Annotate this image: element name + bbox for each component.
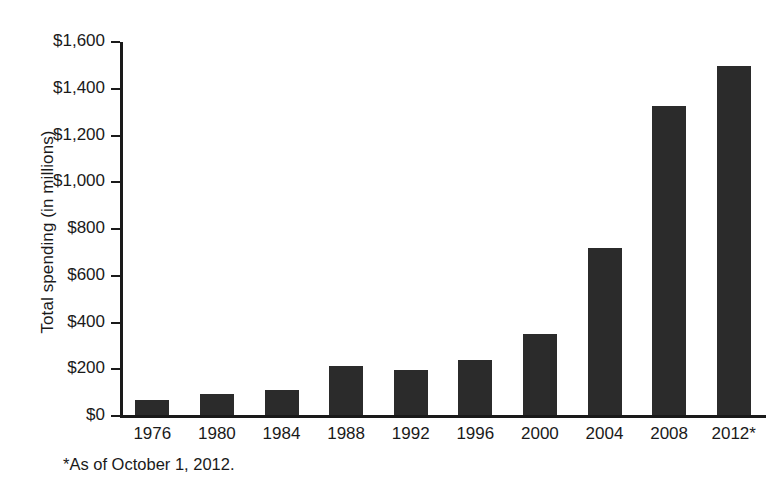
- y-tick-800: $800: [111, 228, 120, 230]
- bar-1984: [265, 390, 299, 415]
- x-tick-label-2008: 2008: [637, 424, 702, 444]
- y-tick-0: $0: [111, 415, 120, 417]
- x-tick-label-2012: 2012*: [701, 424, 766, 444]
- bar-1980: [200, 394, 234, 415]
- y-tick-label-600: $600: [67, 264, 105, 284]
- y-tick-1600: $1,600: [111, 41, 120, 43]
- y-tick-1000: $1,000: [111, 181, 120, 183]
- y-tick-label-800: $800: [67, 218, 105, 238]
- x-tick-label-2004: 2004: [572, 424, 637, 444]
- x-tick-label-1992: 1992: [378, 424, 443, 444]
- y-tick-label-1200: $1,200: [53, 124, 105, 144]
- bar-2012: [717, 66, 751, 415]
- x-axis-spine: [120, 415, 766, 418]
- bar-1992: [394, 370, 428, 415]
- y-tick-1400: $1,400: [111, 88, 120, 90]
- y-tick-label-400: $400: [67, 311, 105, 331]
- y-tick-600: $600: [111, 275, 120, 277]
- bar-2008: [652, 106, 686, 415]
- y-tick-200: $200: [111, 368, 120, 370]
- y-axis-spine: [120, 42, 123, 416]
- bar-2000: [523, 334, 557, 415]
- y-tick-1200: $1,200: [111, 135, 120, 137]
- y-tick-400: $400: [111, 322, 120, 324]
- y-tick-label-200: $200: [67, 358, 105, 378]
- x-tick-label-1984: 1984: [249, 424, 314, 444]
- bar-1996: [458, 360, 492, 415]
- bar-2004: [588, 248, 622, 415]
- x-tick-label-1988: 1988: [314, 424, 379, 444]
- chart-footnote: *As of October 1, 2012.: [63, 455, 235, 474]
- x-tick-label-1996: 1996: [443, 424, 508, 444]
- x-tick-label-1980: 1980: [185, 424, 250, 444]
- plot-area: $0$200$400$600$800$1,000$1,200$1,400$1,6…: [120, 42, 766, 416]
- y-tick-label-1400: $1,400: [53, 77, 105, 97]
- bar-1976: [135, 400, 169, 415]
- y-tick-label-1600: $1,600: [53, 31, 105, 51]
- x-tick-label-1976: 1976: [120, 424, 185, 444]
- x-tick-label-2000: 2000: [508, 424, 573, 444]
- bar-1988: [329, 366, 363, 415]
- y-tick-label-1000: $1,000: [53, 171, 105, 191]
- y-tick-label-0: $0: [86, 405, 105, 425]
